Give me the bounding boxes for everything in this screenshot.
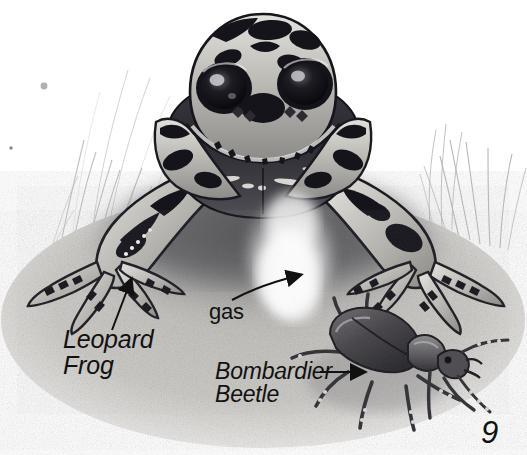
frog-left-eye [196,62,252,114]
label-leopard-frog: Leopard Frog [63,327,153,378]
label-bombardier-beetle: Bombardier Beetle [215,360,332,407]
book-page: Leopard Frog Bombardier Beetle gas 9 [0,0,527,455]
page-number: 9 [481,415,498,451]
label-gas: gas [209,301,244,323]
frog-right-eye [277,58,333,110]
ink-speck [9,146,12,149]
grass-seed-head [41,83,48,90]
